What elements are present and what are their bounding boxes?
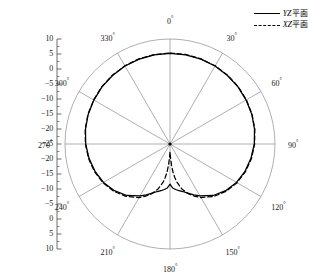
radial-tick-label: −10	[27, 185, 53, 193]
radial-tick-label: −20	[27, 125, 53, 133]
angular-tick-label-150: 150°	[226, 245, 240, 257]
radial-tick-label: −15	[27, 110, 53, 118]
angular-tick-label-90: 90°	[288, 138, 298, 150]
angular-tick-label-270: 270°	[38, 138, 52, 150]
angular-tick-label-120: 120°	[271, 200, 285, 212]
polar-plot-figure: 1050−5−10−15−20−25−20−15−10−50510 0°30°6…	[0, 0, 310, 280]
radial-tick-label: 0	[27, 65, 53, 73]
angular-tick-label-0: 0°	[167, 14, 173, 26]
legend-swatch-dashed-icon	[254, 21, 280, 29]
legend-label-xz-plane: XZ平面	[283, 19, 308, 30]
radial-tick-label: −5	[27, 80, 53, 88]
legend: YZ平面 XZ平面	[254, 8, 308, 30]
angular-tick-label-330: 330°	[101, 31, 115, 43]
angular-tick-label-180: 180°	[163, 262, 177, 274]
radial-tick-label: 5	[27, 50, 53, 58]
radial-ruler-axis	[57, 39, 62, 249]
angular-tick-label-30: 30°	[227, 31, 237, 43]
legend-swatch-solid-icon	[254, 10, 280, 18]
legend-label-yz-plane: YZ平面	[283, 8, 308, 19]
angular-tick-label-300: 300°	[55, 76, 69, 88]
radial-tick-label: 10	[27, 245, 53, 253]
radial-tick-label: −20	[27, 155, 53, 163]
radial-tick-label: 0	[27, 215, 53, 223]
angular-tick-label-240: 240°	[55, 200, 69, 212]
radial-tick-label: 5	[27, 230, 53, 238]
legend-item-xz-plane: XZ平面	[254, 19, 308, 30]
polar-grid	[65, 39, 275, 249]
legend-item-yz-plane: YZ平面	[254, 8, 308, 19]
radial-tick-label: 10	[27, 35, 53, 43]
angular-tick-label-210: 210°	[101, 245, 115, 257]
radial-tick-label: −15	[27, 170, 53, 178]
radial-tick-label: −5	[27, 200, 53, 208]
angular-tick-label-60: 60°	[272, 76, 282, 88]
radial-tick-label: −10	[27, 95, 53, 103]
